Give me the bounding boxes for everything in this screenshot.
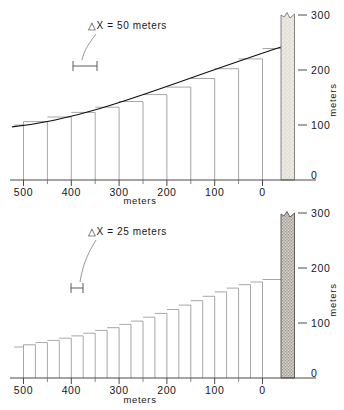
bottom-panel-x-tick-500: 500 [14,384,33,396]
top-panel-x-tick-0: 0 [259,186,265,198]
top-panel-y-axis-ticks [298,15,307,125]
bottom-panel-ice-front-column [281,212,295,379]
bottom-panel-x-tick-0: 0 [259,384,265,396]
top-panel-y-tick-300: 300 [311,9,330,21]
bottom-panel-y-tick-100: 100 [311,317,330,329]
bottom-panel-y-axis-title: meters [327,283,338,316]
bottom-panel-scale-bar [71,283,83,293]
top-panel-leader-line [82,34,96,60]
bottom-panel-x-tick-200: 200 [157,384,176,396]
figure-two-stepped-profiles: △X = 50 meters [0,0,344,410]
top-panel-x-tick-500: 500 [14,186,33,198]
top-panel-stepped-profile [14,49,281,181]
top-panel-annotation-label: △X = 50 meters [88,20,167,31]
top-panel-x-axis-title: meters [123,195,156,206]
bottom-panel-leader-line [80,240,96,282]
bottom-panel: △X = 25 meters [10,207,338,405]
bottom-panel-annotation-label: △X = 25 meters [88,226,167,237]
bottom-panel-x-axis-minor-ticks [47,378,238,382]
top-panel-y-axis-title: meters [327,83,338,116]
bottom-panel-x-tick-400: 400 [62,384,81,396]
bottom-panel-x-axis-title: meters [123,394,156,405]
bottom-panel-stepped-profile [14,280,281,379]
top-panel-x-axis-minor-ticks [47,180,238,184]
top-panel-x-tick-100: 100 [205,186,224,198]
top-panel-ice-front-column [281,13,295,181]
bottom-panel-y-tick-200: 200 [311,262,330,274]
top-panel-x-tick-400: 400 [62,186,81,198]
bottom-panel-y-axis-ticks [298,213,307,323]
bottom-panel-y-tick-0: 0 [311,367,317,379]
top-panel-scale-bar [73,61,97,71]
figure-canvas: △X = 50 meters [0,0,344,410]
top-panel-y-tick-200: 200 [311,64,330,76]
bottom-panel-x-tick-100: 100 [205,384,224,396]
bottom-panel-y-tick-300: 300 [311,207,330,219]
top-panel-y-tick-0: 0 [311,169,317,181]
top-panel: △X = 50 meters [10,9,338,206]
top-panel-x-tick-200: 200 [157,186,176,198]
top-panel-y-tick-100: 100 [311,119,330,131]
